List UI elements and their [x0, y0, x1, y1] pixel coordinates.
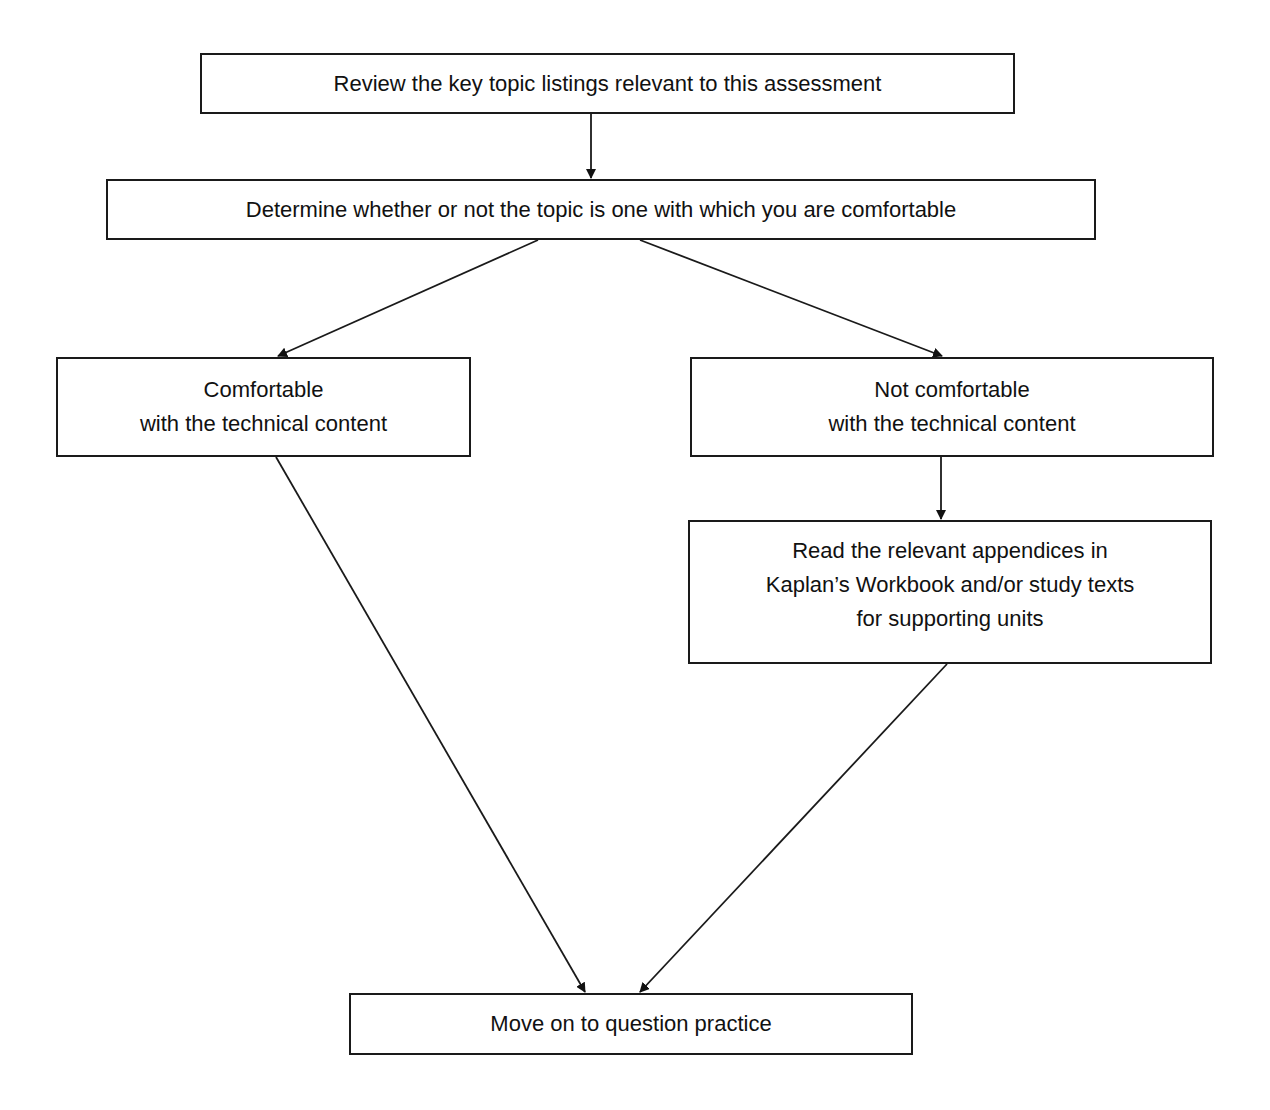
node-label-line-1: Not comfortable [874, 373, 1029, 407]
node-comfortable: Comfortable with the technical content [56, 357, 471, 457]
node-read-appendices: Read the relevant appendices in Kaplan’s… [688, 520, 1212, 664]
node-label-line-1: Read the relevant appendices in [792, 534, 1108, 568]
arrow-determine-to-comfortable [278, 240, 538, 356]
node-label-line-3: for supporting units [856, 602, 1043, 636]
node-determine-comfort: Determine whether or not the topic is on… [106, 179, 1096, 240]
arrow-comfortable-to-practice [276, 457, 585, 992]
arrow-determine-to-not-comfortable [640, 240, 942, 356]
node-label-line-2: with the technical content [828, 407, 1075, 441]
node-review-topics: Review the key topic listings relevant t… [200, 53, 1015, 114]
node-not-comfortable: Not comfortable with the technical conte… [690, 357, 1214, 457]
node-label: Review the key topic listings relevant t… [334, 67, 882, 101]
arrow-read-to-practice [640, 664, 947, 992]
node-label-line-2: with the technical content [140, 407, 387, 441]
node-label: Move on to question practice [490, 1007, 771, 1041]
node-label: Determine whether or not the topic is on… [246, 193, 956, 227]
node-label-line-1: Comfortable [204, 373, 324, 407]
node-label-line-2: Kaplan’s Workbook and/or study texts [766, 568, 1135, 602]
node-question-practice: Move on to question practice [349, 993, 913, 1055]
